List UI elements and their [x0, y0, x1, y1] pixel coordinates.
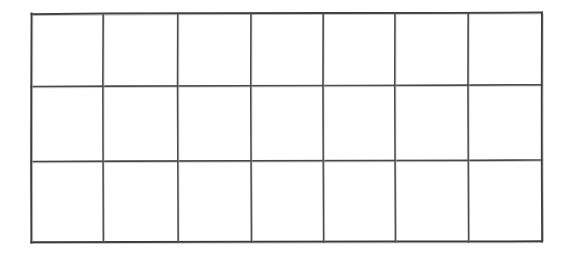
grid-cell-r3c7[interactable] [468, 160, 542, 241]
grid-cell-r2c6[interactable] [395, 85, 468, 160]
grid-cell-r1c1[interactable] [31, 13, 103, 85]
grid-cell-r1c3[interactable] [178, 13, 251, 85]
grid-cell-r2c1[interactable] [31, 85, 103, 160]
grid-cell-r1c4[interactable] [251, 13, 323, 85]
grid-cell-layer [31, 13, 542, 241]
grid-line-h-bottom [31, 241, 542, 242]
grid-cell-r2c2[interactable] [103, 85, 178, 160]
grid-cell-r3c5[interactable] [323, 160, 395, 241]
grid-cell-r1c5[interactable] [323, 13, 395, 85]
grid-cell-r2c7[interactable] [468, 85, 542, 160]
grid-cell-r2c5[interactable] [323, 85, 395, 160]
grid-cell-r3c1[interactable] [31, 160, 103, 241]
grid-cell-r2c3[interactable] [178, 85, 251, 160]
grid-cell-r3c2[interactable] [103, 160, 178, 241]
grid-cell-r1c7[interactable] [468, 13, 542, 85]
grid-cell-r3c3[interactable] [178, 160, 251, 241]
page-canvas [0, 0, 565, 253]
grid-table [31, 13, 542, 241]
grid-cell-r1c2[interactable] [103, 13, 178, 85]
grid-cell-r2c4[interactable] [251, 85, 323, 160]
grid-cell-r1c6[interactable] [395, 13, 468, 85]
grid-cell-r3c4[interactable] [251, 160, 323, 241]
grid-cell-r3c6[interactable] [395, 160, 468, 241]
